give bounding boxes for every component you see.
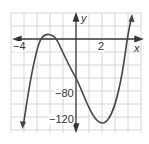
curve-down-arrow-icon <box>20 121 26 129</box>
y-tick-label-neg80: −80 <box>55 88 74 99</box>
y-tick-label-neg120: −120 <box>49 114 74 125</box>
x-tick-label-2: 2 <box>98 41 104 52</box>
y-axis-label: y <box>81 13 87 24</box>
function-graph <box>0 0 149 144</box>
x-axis <box>14 37 142 42</box>
curve-up-arrow-icon <box>129 14 135 22</box>
y-axis <box>74 14 79 131</box>
y-axis-up-arrow-icon <box>74 14 79 21</box>
x-axis-label: x <box>134 43 140 54</box>
x-tick-label-neg4: −4 <box>13 41 26 52</box>
